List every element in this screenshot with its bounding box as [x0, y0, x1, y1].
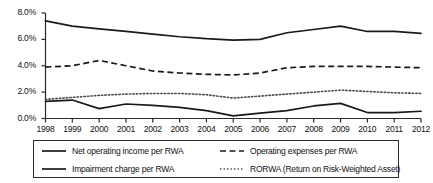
plot-area: 0.0%2.0%4.0%6.0%8.0% 1998199920002001200… — [0, 0, 433, 133]
legend-label-operating-expenses: Operating expenses per RWA — [250, 146, 357, 156]
legend-swatch-solid-icon — [42, 146, 66, 156]
legend-label-rorwa: RORWA (Return on Risk-Weighted Asset) — [250, 164, 400, 174]
y-tick-label: 8.0% — [2, 8, 36, 17]
y-tick-label: 0.0% — [2, 114, 36, 123]
series-line-impairment-charge — [46, 100, 422, 116]
legend-item-operating-expenses: Operating expenses per RWA — [220, 141, 357, 160]
legend-swatch-dotted-icon — [220, 164, 244, 174]
x-tick-label: 2011 — [379, 125, 409, 134]
legend-item-net-operating-income: Net operating income per RWA — [42, 141, 184, 160]
legend-row-3: Impairment charge per RWA — [42, 159, 174, 178]
y-tick-label: 2.0% — [2, 87, 36, 96]
x-tick-label: 2003 — [165, 125, 195, 134]
x-tick-label: 1999 — [57, 125, 87, 134]
x-tick-label: 2012 — [406, 125, 433, 134]
series-line-rorwa — [46, 90, 422, 99]
x-tick-label: 2008 — [299, 125, 329, 134]
x-tick-label: 1998 — [31, 125, 61, 134]
legend-row-2: Operating expenses per RWA — [220, 141, 357, 160]
legend-swatch-solid-2-icon — [42, 164, 66, 174]
x-tick-label: 2006 — [245, 125, 275, 134]
line-chart-svg — [0, 0, 433, 133]
x-tick-label: 2007 — [272, 125, 302, 134]
legend-item-rorwa: RORWA (Return on Risk-Weighted Asset) — [220, 159, 400, 178]
y-tick-label: 6.0% — [2, 34, 36, 43]
legend-item-impairment-charge: Impairment charge per RWA — [42, 159, 174, 178]
series-line-net-operating-income — [46, 21, 422, 40]
x-tick-label: 2005 — [218, 125, 248, 134]
legend-label-net-operating-income: Net operating income per RWA — [72, 146, 184, 156]
y-tick-label: 4.0% — [2, 61, 36, 70]
legend-label-impairment-charge: Impairment charge per RWA — [72, 164, 174, 174]
legend-swatch-dashed-icon — [220, 146, 244, 156]
x-tick-label: 2010 — [352, 125, 382, 134]
x-tick-label: 2001 — [111, 125, 141, 134]
x-tick-label: 2000 — [84, 125, 114, 134]
series-line-operating-expenses — [46, 60, 422, 75]
chart-figure: 0.0%2.0%4.0%6.0%8.0% 1998199920002001200… — [0, 0, 433, 183]
x-tick-label: 2004 — [191, 125, 221, 134]
x-tick-label: 2002 — [138, 125, 168, 134]
x-tick-label: 2009 — [326, 125, 356, 134]
chart-legend: Net operating income per RWA Operating e… — [33, 140, 399, 178]
legend-row-4: RORWA (Return on Risk-Weighted Asset) — [220, 159, 400, 178]
legend-row-1: Net operating income per RWA — [42, 141, 184, 160]
